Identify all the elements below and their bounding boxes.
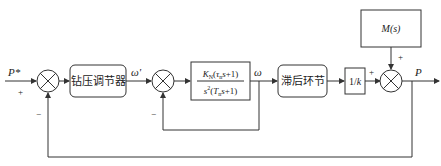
plant-transfer-function-block: KN(τns+1) s2(Tns+1): [191, 62, 250, 100]
controller-block: 钻压调节器: [70, 65, 126, 97]
omega-ref-label: ω': [131, 66, 142, 78]
sum1-minus-sign: −: [36, 109, 41, 119]
sum3-plus-sign-main: +: [369, 67, 374, 77]
sum1-plus-sign: +: [18, 87, 23, 97]
omega-label: ω: [254, 66, 262, 78]
delay-block: 滞后环节: [278, 65, 327, 97]
input-label: P*: [7, 66, 21, 78]
block-diagram: P* + − 钻压调节器 ω' − KN(τns+1) s2(Tns+1): [0, 0, 441, 166]
controller-label: 钻压调节器: [71, 74, 126, 88]
delay-label: 滞后环节: [281, 75, 325, 88]
disturbance-block: M(s): [361, 10, 421, 47]
disturbance-label: M(s): [381, 23, 402, 35]
gain-label: 1/k: [349, 76, 362, 87]
sum2-minus-sign: −: [151, 109, 156, 119]
input-signal: P* +: [5, 66, 36, 97]
gain-block: 1/k: [345, 68, 365, 94]
output-label: P: [414, 66, 422, 78]
summing-junction-3: [380, 70, 402, 92]
sum3-plus-sign-disturbance: +: [398, 52, 403, 62]
